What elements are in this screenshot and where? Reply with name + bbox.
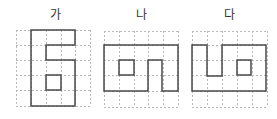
shape-outline: [104, 45, 178, 91]
inner-square: [237, 60, 251, 75]
figure-na: [104, 31, 179, 108]
figure-ga: [16, 30, 91, 107]
figure-da: [192, 31, 268, 108]
inner-square: [119, 60, 134, 75]
dotted-grid: [192, 31, 268, 108]
dotted-grid: [16, 30, 91, 107]
figures-canvas: [0, 0, 277, 119]
shape-outline: [192, 45, 266, 91]
dotted-grid: [104, 31, 179, 108]
shape-outline: [31, 30, 75, 106]
inner-square: [46, 75, 61, 90]
